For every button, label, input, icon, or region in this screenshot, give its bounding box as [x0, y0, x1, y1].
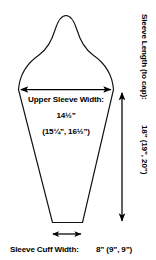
- sleeve-diagram-svg: Upper Sleeve Width: 14½” (15¼”, 16½”) Sl…: [0, 0, 156, 260]
- sleeve-schematic-diagram: Upper Sleeve Width: 14½” (15¼”, 16½”) Sl…: [0, 0, 156, 260]
- sleeve-length-label: Sleeve Length (to cap):: [140, 14, 149, 100]
- upper-sleeve-width-value: 14½”: [56, 111, 75, 120]
- upper-sleeve-width-alt-values: (15¼”, 16½”): [42, 127, 90, 136]
- upper-sleeve-width-label: Upper Sleeve Width:: [28, 95, 104, 104]
- sleeve-cuff-width-label: Sleeve Cuff Width:: [10, 245, 79, 254]
- sleeve-length-value: 18” (19”, 20”): [140, 125, 149, 175]
- sleeve-cuff-width-value: 8” (9”, 9”): [96, 245, 133, 254]
